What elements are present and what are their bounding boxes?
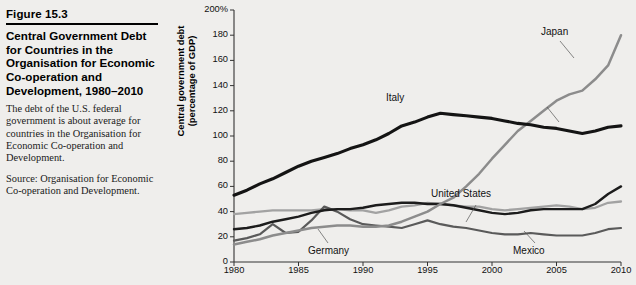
title-divider bbox=[6, 23, 158, 25]
caption-panel: Figure 15.3 Central Government Debt for … bbox=[0, 0, 176, 285]
series-line-united-states bbox=[234, 186, 621, 229]
figure-number: Figure 15.3 bbox=[6, 8, 168, 20]
series-line-japan bbox=[234, 35, 621, 244]
series-label-germany: Germany bbox=[308, 245, 349, 256]
series-label-mexico: Mexico bbox=[513, 245, 545, 256]
figure-title: Central Government Debt for Countries in… bbox=[6, 29, 164, 97]
series-label-italy: Italy bbox=[386, 92, 404, 103]
series-lines bbox=[234, 35, 621, 244]
leader-japan bbox=[560, 41, 574, 58]
plot-area bbox=[176, 0, 625, 285]
line-chart: Central government debt (percentage of G… bbox=[176, 0, 625, 285]
label-leader-lines bbox=[318, 41, 574, 243]
series-label-japan: Japan bbox=[541, 26, 568, 37]
leader-italy bbox=[547, 107, 559, 122]
leader-germany bbox=[318, 229, 328, 243]
figure-description: The debt of the U.S. federal government … bbox=[6, 103, 166, 164]
figure-source: Source: Organisation for Economic Co-ope… bbox=[6, 173, 166, 198]
series-label-united-states: United States bbox=[431, 188, 491, 199]
series-line-italy bbox=[234, 113, 621, 195]
